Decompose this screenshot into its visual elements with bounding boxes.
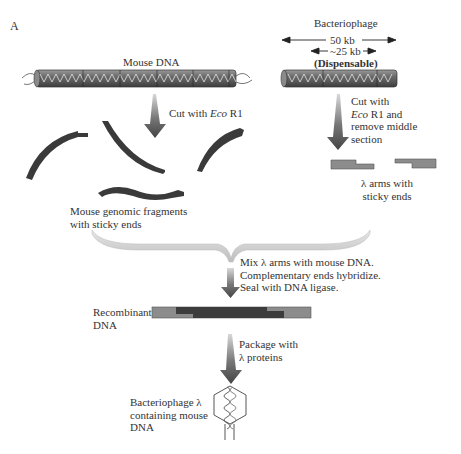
phage-cut-line4: section	[351, 133, 417, 146]
recombinant-line2: DNA	[93, 319, 152, 332]
recombinant-line1: Recombinant	[93, 306, 152, 319]
merge-line2: Complementary ends hybridize.	[240, 269, 381, 282]
merge-line3: Seal with DNA ligase.	[240, 281, 381, 294]
phage-cut-instruction: Cut with Eco R1 and remove middle sectio…	[351, 95, 417, 145]
phage-dispensable-label: (Dispensable)	[314, 57, 378, 70]
package-instructions: Package with λ proteins	[239, 338, 298, 363]
final-line1: Bacteriophage λ	[130, 396, 208, 409]
phage-title: Bacteriophage	[314, 17, 378, 30]
fragments-label-line2: with sticky ends	[70, 218, 187, 231]
phage-dna-cylinder	[281, 70, 397, 87]
enzyme-name: Eco	[210, 107, 227, 119]
enzyme-suffix: R1	[227, 107, 243, 119]
final-phage-label: Bacteriophage λ containing mouse DNA	[130, 396, 208, 434]
phage-dispensable-length: ~25 kb	[330, 45, 361, 58]
fragments-label: Mouse genomic fragments with sticky ends	[70, 205, 187, 230]
lambda-arms	[331, 159, 436, 169]
lambda-arms-label: λ arms with sticky ends	[352, 177, 422, 202]
final-line2: containing mouse	[130, 409, 208, 422]
merge-instructions: Mix λ arms with mouse DNA. Complementary…	[240, 256, 381, 294]
recombinant-label: Recombinant DNA	[93, 306, 152, 331]
fragments-label-line1: Mouse genomic fragments	[70, 205, 187, 218]
panel-label: A	[10, 20, 19, 33]
arms-label-line1: λ arms with	[352, 177, 422, 190]
cut-prefix: Cut with	[169, 107, 210, 119]
recombinant-dna-bar	[152, 307, 311, 318]
phage-enzyme-suffix: R1 and	[368, 108, 402, 120]
merge-line1: Mix λ arms with mouse DNA.	[240, 256, 381, 269]
phage-particle	[214, 386, 246, 440]
package-line1: Package with	[239, 338, 298, 351]
phage-cut-line3: remove middle	[351, 120, 417, 133]
phage-enzyme-name: Eco	[351, 108, 368, 120]
mouse-fragments	[26, 121, 244, 200]
package-line2: λ proteins	[239, 351, 298, 364]
mouse-dna-title: Mouse DNA	[123, 56, 180, 69]
mouse-dna-cylinder	[22, 70, 252, 87]
phage-cut-line1: Cut with	[351, 95, 417, 108]
final-line3: DNA	[130, 421, 208, 434]
mouse-cut-instruction: Cut with Eco R1	[169, 107, 243, 120]
arms-label-line2: sticky ends	[352, 190, 422, 203]
